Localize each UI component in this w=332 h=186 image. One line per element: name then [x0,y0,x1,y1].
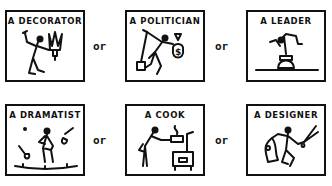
dramatist-figure-icon [7,122,83,174]
panel-designer: A DESIGNER [246,104,326,176]
panel-politician: A POLITICIAN $ [125,10,205,82]
panel-caption: A COOK [127,110,203,120]
panel-caption: A LEADER [248,16,324,26]
or-separator: or [93,134,106,147]
panel-caption: A DECORATOR [7,16,83,26]
panel-caption: A DESIGNER [248,110,324,120]
cook-figure-icon [127,122,203,174]
svg-text:$: $ [175,47,181,57]
or-separator: or [93,40,106,53]
panel-decorator: A DECORATOR [5,10,85,82]
panel-caption: A DRAMATIST [7,110,83,120]
panel-cook: A COOK [125,104,205,176]
or-separator: or [215,40,228,53]
or-separator: or [215,134,228,147]
panel-leader: A LEADER [246,10,326,82]
politician-figure-icon: $ [127,28,203,80]
panel-dramatist: A DRAMATIST [5,104,85,176]
designer-figure-icon [248,122,324,174]
panel-caption: A POLITICIAN [127,16,203,26]
leader-figure-icon [248,28,324,80]
decorator-figure-icon [7,28,83,80]
